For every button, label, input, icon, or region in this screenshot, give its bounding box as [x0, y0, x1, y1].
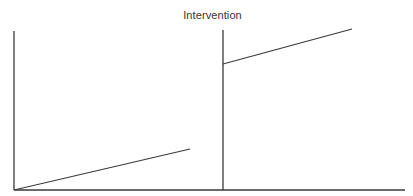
pre-intervention-line [14, 149, 190, 190]
interrupted-time-series-plot [0, 0, 413, 196]
post-intervention-line [223, 29, 352, 64]
